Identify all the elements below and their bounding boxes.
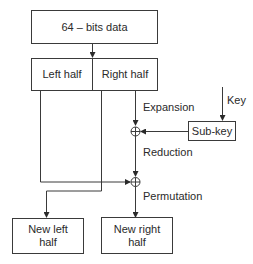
- permutation-label: Permutation: [143, 190, 202, 203]
- sub-key-label: Sub-key: [189, 122, 235, 140]
- new-right-half-label: New right half: [110, 218, 164, 253]
- right-half-label: Right half: [93, 59, 157, 90]
- new-left-half-label: New left half: [22, 219, 74, 253]
- reduction-label: Reduction: [143, 146, 193, 159]
- left-half-label: Left half: [32, 59, 92, 90]
- expansion-label: Expansion: [143, 101, 194, 114]
- top-box-label: 64 – bits data: [32, 11, 157, 43]
- key-label: Key: [227, 94, 246, 107]
